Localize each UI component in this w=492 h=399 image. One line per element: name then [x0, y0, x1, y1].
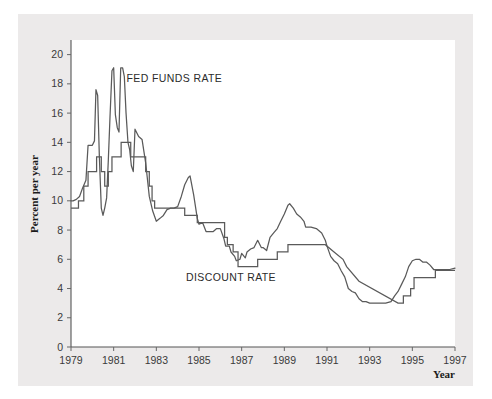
- y-axis-label: Percent per year: [28, 155, 40, 233]
- y-tick-label: 2: [57, 311, 63, 323]
- y-tick-label: 10: [51, 194, 63, 206]
- x-tick-label: 1979: [59, 354, 83, 366]
- x-tick-label: 1991: [315, 354, 339, 366]
- x-tick-label: 1997: [443, 354, 467, 366]
- x-tick-label: 1981: [102, 354, 126, 366]
- x-axis-tick-labels: 1979198119831985198719891991199319951997: [59, 354, 467, 366]
- y-tick-label: 4: [57, 282, 63, 294]
- x-tick-label: 1985: [187, 354, 211, 366]
- y-tick-label: 20: [51, 48, 63, 60]
- series-annotation-discount-rate: DISCOUNT RATE: [186, 271, 276, 283]
- x-tick-label: 1995: [401, 354, 425, 366]
- x-tick-label: 1989: [273, 354, 297, 366]
- x-tick-label: 1983: [145, 354, 169, 366]
- y-tick-label: 0: [57, 341, 63, 353]
- figure-container: 02468101214161820 1979198119831985198719…: [0, 0, 492, 399]
- y-tick-label: 18: [51, 77, 63, 89]
- line-chart: 02468101214161820 1979198119831985198719…: [0, 0, 492, 399]
- x-axis-ticks: [71, 347, 455, 351]
- y-axis-tick-labels: 02468101214161820: [51, 48, 63, 352]
- x-tick-label: 1987: [230, 354, 254, 366]
- y-tick-label: 8: [57, 224, 63, 236]
- series-annotation-fed-funds-rate: FED FUNDS RATE: [126, 72, 222, 84]
- y-tick-label: 12: [51, 165, 63, 177]
- y-tick-label: 6: [57, 253, 63, 265]
- y-tick-label: 16: [51, 107, 63, 119]
- plot-area-background: [71, 40, 455, 347]
- y-tick-label: 14: [51, 136, 63, 148]
- x-tick-label: 1993: [358, 354, 382, 366]
- x-axis-label: Year: [433, 368, 455, 380]
